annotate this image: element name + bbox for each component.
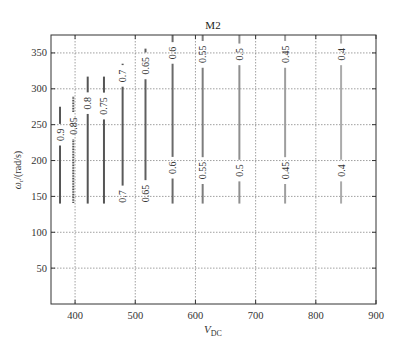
y-tick-label: 200 <box>31 155 47 166</box>
x-tick-label: 600 <box>188 310 204 321</box>
x-axis-label: VDC <box>204 323 222 338</box>
x-axis-ticks: 400500600700800900 <box>67 35 384 321</box>
contour-label: 0.6 <box>167 47 178 60</box>
y-tick-label: 50 <box>37 263 48 274</box>
contour-level-0-7: 0.70.7 <box>117 64 128 203</box>
x-axis-label-sub: DC <box>211 329 222 338</box>
x-tick-label: 700 <box>248 310 264 321</box>
contour-label: 0.6 <box>167 161 178 174</box>
x-tick-label: 800 <box>308 310 324 321</box>
contour-label: 0.7 <box>117 190 128 203</box>
y-tick-label: 150 <box>31 191 47 202</box>
chart-title: M2 <box>205 19 220 31</box>
contour-label: 0.5 <box>234 48 245 61</box>
contour-label: 0.5 <box>234 164 245 177</box>
contour-label: 0.9 <box>55 128 66 141</box>
x-tick-label: 400 <box>67 310 83 321</box>
contour-label: 0.55 <box>197 46 208 64</box>
y-axis-label: ωr/(rad/s) <box>12 151 25 189</box>
contour-level-0-75: 0.75 <box>98 77 109 204</box>
contour-label: 0.45 <box>280 162 291 180</box>
contour-label: 0.8 <box>82 97 93 110</box>
contour-label: 0.45 <box>280 46 291 64</box>
contour-level-0-8: 0.8 <box>82 77 93 204</box>
y-tick-label: 350 <box>31 47 47 58</box>
contour-level-0-55: 0.550.55 <box>197 35 208 204</box>
contour-label: 0.4 <box>336 48 347 61</box>
y-tick-label: 300 <box>31 83 47 94</box>
y-axis-label-rest: /(rad/s) <box>12 151 24 180</box>
y-tick-label: 100 <box>31 227 47 238</box>
contour-label: 0.7 <box>117 70 128 83</box>
contour-level-0-9: 0.9 <box>55 107 66 204</box>
contour-label: 0.55 <box>197 162 208 180</box>
contour-label: 0.85 <box>68 117 79 135</box>
contour-level-0-45: 0.450.45 <box>280 35 291 204</box>
contour-level-0-5: 0.50.5 <box>234 35 245 204</box>
contour-level-0-6: 0.60.6 <box>167 35 178 204</box>
contour-level-0-85: 0.85 <box>68 97 79 204</box>
contour-label: 0.65 <box>140 57 151 75</box>
contour-label: 0.75 <box>98 97 109 115</box>
contour-chart: M2 0.90.850.80.750.70.70.650.650.60.60.5… <box>0 0 400 357</box>
contour-label: 0.65 <box>140 185 151 203</box>
y-tick-label: 250 <box>31 119 47 130</box>
contour-lines: 0.90.850.80.750.70.70.650.650.60.60.550.… <box>55 35 347 204</box>
x-tick-label: 500 <box>127 310 143 321</box>
contour-level-0-4: 0.40.4 <box>336 35 347 204</box>
contour-label: 0.4 <box>336 164 347 177</box>
x-tick-label: 900 <box>368 310 384 321</box>
plot-area-frame <box>51 35 376 304</box>
contour-level-0-65: 0.650.65 <box>140 49 151 203</box>
grid-lines <box>51 35 376 304</box>
y-axis-label-main: ω <box>12 182 23 189</box>
